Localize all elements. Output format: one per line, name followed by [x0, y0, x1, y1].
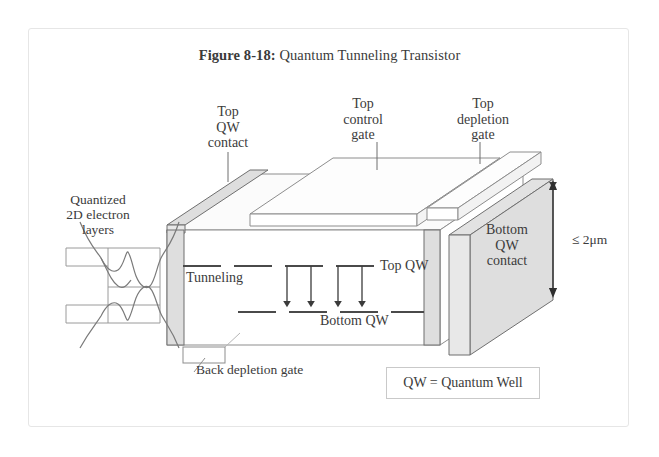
label-top-qw-contact-line2: QW: [186, 120, 270, 136]
label-quantized-line3: layers: [32, 222, 164, 237]
label-top-depletion-gate: Top depletion gate: [435, 96, 531, 143]
label-top-control-gate-line1: Top: [320, 96, 406, 112]
label-top-qw-contact-line1: Top: [186, 104, 270, 120]
bottom-qw-contact-bar: [424, 230, 440, 345]
label-quantized-2d-electron-layers: Quantized 2D electron layers: [32, 192, 164, 237]
top-control-gate-front: [250, 214, 417, 226]
label-top-depletion-gate-line1: Top: [435, 96, 531, 112]
label-bottom-qw-contact: Bottom QW contact: [468, 222, 546, 269]
label-quantized-line2: 2D electron: [32, 207, 164, 222]
legend-text: QW = Quantum Well: [403, 375, 522, 391]
legend-box: QW = Quantum Well: [386, 367, 540, 399]
wavefunction-curve-lower: [80, 286, 179, 348]
label-top-qw-contact-line3: contact: [186, 135, 270, 151]
label-top-control-gate-line2: control: [320, 112, 406, 128]
label-top-qw-contact: Top QW contact: [186, 104, 270, 151]
label-bottom-qw-contact-line1: Bottom: [468, 222, 546, 238]
label-top-control-gate-line3: gate: [320, 127, 406, 143]
label-dimension: ≤ 2μm: [572, 232, 634, 247]
label-tunneling: Tunneling: [186, 270, 278, 286]
label-quantized-line1: Quantized: [32, 192, 164, 207]
label-bottom-qw: Bottom QW: [320, 313, 412, 329]
label-top-control-gate: Top control gate: [320, 96, 406, 143]
figure-page: Figure 8-18: Quantum Tunneling Transisto…: [0, 0, 659, 457]
label-top-depletion-gate-line2: depletion: [435, 112, 531, 128]
label-top-qw: Top QW: [380, 258, 450, 274]
wavefunction-curve-mid: [101, 258, 131, 287]
bottom-qw-contact-left: [449, 235, 470, 355]
top-depletion-gate-front: [427, 208, 458, 220]
back-depletion-gate-rect: [183, 347, 225, 363]
label-bottom-qw-contact-line2: QW: [468, 238, 546, 254]
potential-well-profile: [66, 248, 160, 323]
label-bottom-qw-contact-line3: contact: [468, 253, 546, 269]
label-top-depletion-gate-line3: gate: [435, 127, 531, 143]
label-back-depletion-gate: Back depletion gate: [196, 362, 356, 377]
